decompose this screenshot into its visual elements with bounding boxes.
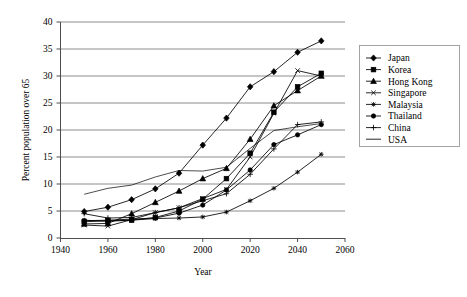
x-tick-label-1980: 1980 [146,245,165,255]
y-tick-label-15: 15 [43,152,53,162]
x-tick-label-2000: 2000 [193,245,212,255]
datapoint-5-0-glyph [82,219,86,223]
y-tick-label-30: 30 [43,71,53,81]
line-chart-svg: 0510152025303540 19401960198020002020204… [0,0,467,297]
x-tick-label-2040: 2040 [288,245,307,255]
legend-label-2: Hong Kong [388,77,433,87]
legend-label-4: Malaysia [388,100,424,110]
datapoint-5-3 [153,216,157,220]
datapoint-5-3-glyph [153,216,157,220]
datapoint-4-6 [224,210,229,215]
legend-label-1: Korea [388,65,412,75]
datapoint-5-4-glyph [177,211,181,215]
legend-marker-1-glyph [371,67,376,72]
datapoint-5-5 [201,203,205,207]
legend-marker-5 [371,114,375,118]
y-tick-label-0: 0 [48,233,53,243]
datapoint-5-4 [177,211,181,215]
datapoint-4-4 [177,216,182,221]
x-tick-label-2020: 2020 [241,245,260,255]
datapoint-5-0 [82,219,86,223]
legend-marker-4 [371,102,376,107]
y-tick-label-35: 35 [43,44,53,54]
legend-marker-5-glyph [371,114,375,118]
datapoint-5-7-glyph [248,168,252,172]
datapoint-5-8-glyph [272,142,276,146]
y-tick-label-5: 5 [48,206,53,216]
legend-label-0: Japan [388,53,410,63]
datapoint-1-6 [224,176,229,181]
datapoint-4-7 [248,198,253,203]
y-axis-title: Percent population over 65 [21,78,31,181]
datapoint-5-8 [272,142,276,146]
x-axis-title: Year [194,267,212,277]
legend-label-3: Singapore [388,88,427,98]
legend-label-5: Thailand [388,111,422,121]
datapoint-5-7 [248,168,252,172]
y-tick-label-40: 40 [43,17,53,27]
datapoint-4-10 [319,152,324,157]
x-tick-label-1940: 1940 [51,245,70,255]
chart-figure: 0510152025303540 19401960198020002020204… [0,0,467,297]
datapoint-1-6-glyph [224,176,229,181]
y-tick-label-25: 25 [43,98,53,108]
datapoint-4-8 [272,186,277,191]
datapoint-4-5 [200,215,205,220]
legend-marker-1 [371,67,376,72]
datapoint-4-9 [295,170,300,175]
x-tick-label-1960: 1960 [98,245,117,255]
legend-label-7: USA [388,135,407,145]
y-tick-label-10: 10 [43,179,53,189]
legend-label-6: China [388,123,411,133]
y-tick-label-20: 20 [43,125,53,135]
datapoint-5-9-glyph [295,133,299,137]
datapoint-5-9 [295,133,299,137]
chart-background [0,0,467,297]
x-tick-label-2060: 2060 [336,245,355,255]
datapoint-5-5-glyph [201,203,205,207]
